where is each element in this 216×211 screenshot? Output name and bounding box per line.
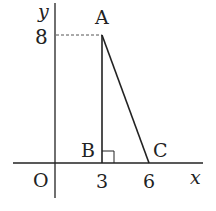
y-tick-8: 8 [35, 25, 48, 49]
x-tick-3: 3 [96, 170, 108, 192]
x-axis-label: x [190, 166, 201, 188]
right-angle-marker [102, 151, 114, 163]
origin-label: O [33, 169, 49, 191]
segment-ac [102, 35, 149, 163]
y-axis-label: y [37, 0, 49, 22]
coordinate-diagram: y x O 8 3 6 A B C [0, 0, 216, 211]
point-a-label: A [94, 6, 109, 28]
point-b-label: B [81, 139, 95, 161]
x-tick-6: 6 [143, 170, 155, 192]
point-c-label: C [153, 139, 168, 161]
